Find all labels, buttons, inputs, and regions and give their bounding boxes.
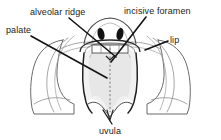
label-incisive-foramen: incisive foramen	[124, 6, 191, 16]
right-nostril-icon	[115, 27, 124, 41]
oral-cavity-illustration	[0, 0, 221, 140]
label-palate: palate	[6, 25, 31, 35]
label-lip: lip	[170, 35, 179, 45]
anatomy-diagram: alveolar ridge palate incisive foramen l…	[0, 0, 221, 140]
right-lower-fold	[151, 98, 187, 104]
left-lower-fold	[34, 98, 70, 104]
label-uvula: uvula	[99, 126, 121, 136]
label-alveolar-ridge: alveolar ridge	[30, 7, 85, 17]
